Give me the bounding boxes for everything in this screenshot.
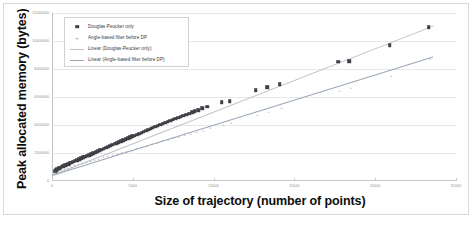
data-point-marker xyxy=(81,162,84,165)
y-axis-tick-label: 0 xyxy=(47,179,49,183)
data-point-marker xyxy=(336,60,340,64)
data-point-marker xyxy=(166,138,169,141)
data-point-marker xyxy=(172,137,175,140)
data-point-marker xyxy=(256,113,259,116)
y-axis-tick-label: 4000000 xyxy=(34,123,49,127)
data-point-marker xyxy=(228,99,232,103)
data-point-marker xyxy=(135,147,138,150)
data-point-marker xyxy=(150,142,153,145)
data-point-marker xyxy=(205,105,209,109)
data-point-marker xyxy=(130,148,133,151)
y-axis-tick-label: 2000000 xyxy=(34,151,49,155)
x-axis-title: Size of trajectory (number of points) xyxy=(60,194,460,208)
data-point-marker xyxy=(222,123,225,126)
y-axis-line xyxy=(52,13,53,181)
x-axis-tick-label: 5000 xyxy=(129,184,137,188)
data-point-marker xyxy=(161,140,164,143)
legend-item: Angle-based filter before DP xyxy=(69,32,184,43)
data-point-marker xyxy=(140,145,143,148)
data-point-marker xyxy=(254,88,258,92)
y-axis-tick-label: 8000000 xyxy=(34,67,49,71)
data-point-marker xyxy=(115,152,118,155)
data-point-marker xyxy=(120,151,123,154)
gridline xyxy=(52,125,456,126)
data-point-marker xyxy=(349,86,352,89)
data-point-marker xyxy=(183,134,186,137)
x-axis-tick-label: 25000 xyxy=(451,184,462,188)
data-point-marker xyxy=(338,89,341,92)
data-point-marker xyxy=(280,107,283,110)
legend-item-label: Linear (Angle-based filter before DP) xyxy=(88,57,165,62)
data-point-marker xyxy=(220,101,224,105)
square-marker-icon xyxy=(69,22,85,31)
x-axis-tick-label: 0 xyxy=(51,184,53,188)
data-point-marker xyxy=(267,110,270,113)
x-axis-tick-label: 20000 xyxy=(370,184,381,188)
data-point-marker xyxy=(265,85,269,89)
gridline xyxy=(52,69,456,70)
data-point-marker xyxy=(155,141,158,144)
data-point-marker xyxy=(89,159,92,162)
x-axis-line xyxy=(52,180,456,181)
data-point-marker xyxy=(73,164,76,167)
data-point-marker xyxy=(189,132,192,135)
x-axis-tick-label: 10000 xyxy=(208,184,219,188)
data-point-marker xyxy=(278,82,282,86)
data-point-marker xyxy=(97,157,100,160)
data-point-marker xyxy=(427,25,431,29)
data-point-marker xyxy=(125,149,128,152)
data-point-marker xyxy=(93,158,96,161)
x-axis-tick-label: 15000 xyxy=(289,184,300,188)
data-point-marker xyxy=(102,156,105,159)
line-swatch-icon xyxy=(69,55,85,64)
data-point-marker xyxy=(195,131,198,134)
legend-item-label: Angle-based filter before DP xyxy=(88,35,147,40)
data-point-marker xyxy=(202,129,205,132)
data-point-marker xyxy=(196,108,200,112)
data-point-marker xyxy=(77,163,80,166)
data-point-marker xyxy=(145,144,148,147)
legend-item-label: Douglas-Peucker only xyxy=(88,24,134,29)
y-axis-tick-label: 10000000 xyxy=(32,39,49,43)
gridline xyxy=(52,13,456,14)
data-point-marker xyxy=(428,57,431,60)
legend-item-label: Linear (Douglas-Peucker only) xyxy=(88,46,152,51)
y-axis-tick-label: 12000000 xyxy=(32,11,49,15)
y-axis-tick-label: 6000000 xyxy=(34,95,49,99)
data-point-marker xyxy=(177,135,180,138)
data-point-marker xyxy=(200,107,204,111)
data-point-marker xyxy=(388,43,392,47)
legend-item: Linear (Angle-based filter before DP) xyxy=(69,54,184,65)
chart-legend: Douglas-Peucker onlyAngle-based filter b… xyxy=(64,17,189,67)
data-point-marker xyxy=(209,127,212,130)
data-point-marker xyxy=(111,153,114,156)
data-point-marker xyxy=(230,121,233,124)
gridline xyxy=(52,97,456,98)
plus-marker-icon xyxy=(69,33,85,42)
data-point-marker xyxy=(390,74,393,77)
y-axis-title: Peak allocated memory (bytes) xyxy=(15,9,29,189)
legend-item: Linear (Douglas-Peucker only) xyxy=(69,43,184,54)
legend-item: Douglas-Peucker only xyxy=(69,21,184,32)
data-point-marker xyxy=(348,59,352,63)
data-point-marker xyxy=(85,160,88,163)
line-swatch-icon xyxy=(69,44,85,53)
chart-figure: Peak allocated memory (bytes) Size of tr… xyxy=(0,0,473,228)
data-point-marker xyxy=(106,154,109,157)
x-axis-tick-mark xyxy=(456,178,457,181)
